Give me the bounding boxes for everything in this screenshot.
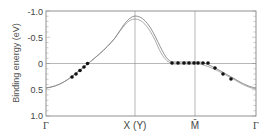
y-tick-label: 0.5 [30,85,43,95]
experimental-points [70,61,233,81]
x-tick-label-m: M̄ [191,119,199,131]
y-tick-label: 0 [38,59,43,69]
x-tick-label-gamma-right: Γ [253,120,259,131]
x-tick-label-x: X (Y) [124,120,147,131]
band-structure-chart: -1.0 -0.5 0 0.5 1.0 Binding energy (eV) … [0,0,271,135]
x-tick-label-gamma-left: Γ [43,120,49,131]
y-axis-title: Binding energy (eV) [11,23,21,103]
y-tick-label: 1.0 [30,111,43,121]
y-tick-label: -0.5 [27,33,43,43]
y-tick-label: -1.0 [27,7,43,17]
band-curve-1 [46,16,256,88]
